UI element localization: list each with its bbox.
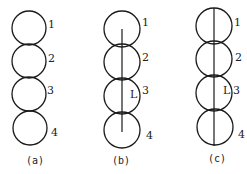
- label-a-3: 3: [47, 84, 54, 97]
- label-b-1: 1: [142, 16, 149, 29]
- panel-b: 1 2 L 3 4 (b): [104, 11, 153, 166]
- panel-a: 1 2 3 4 (a): [12, 11, 58, 166]
- caption-a: (a): [26, 155, 44, 166]
- circle-a-3: [12, 77, 46, 111]
- label-b-4: 4: [146, 129, 153, 142]
- caption-c: (c): [208, 153, 226, 164]
- label-c-2: 2: [235, 51, 242, 64]
- caption-b: (b): [112, 155, 130, 166]
- label-a-4: 4: [51, 126, 58, 139]
- inner-label-c: L: [223, 84, 231, 97]
- circle-c-4: [197, 109, 233, 145]
- circle-a-1: [12, 11, 46, 45]
- label-b-3: 3: [142, 84, 149, 97]
- label-a-1: 1: [48, 18, 55, 31]
- label-c-4: 4: [238, 128, 245, 141]
- circle-a-4: [13, 111, 47, 145]
- panel-c: 1 2 L 3 4 (c): [196, 8, 245, 164]
- label-a-2: 2: [48, 52, 55, 65]
- inner-label-b: L: [130, 88, 138, 101]
- label-c-3: 3: [233, 84, 240, 97]
- label-b-2: 2: [142, 51, 149, 64]
- label-c-1: 1: [234, 16, 241, 29]
- circle-a-2: [12, 44, 46, 78]
- diagram-canvas: 1 2 3 4 (a) 1 2 L 3 4 (b) 1 2 L 3 4 (c): [0, 0, 247, 174]
